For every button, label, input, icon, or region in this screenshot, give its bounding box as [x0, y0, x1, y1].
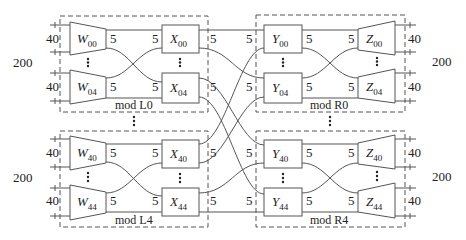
module-label: mod L0	[115, 98, 153, 112]
port-width-label: 40	[408, 31, 421, 46]
link-width-label: 5	[210, 193, 217, 208]
module-label: mod R4	[310, 213, 348, 227]
group-total-label: 200	[432, 169, 452, 184]
link-width-label: 5	[110, 145, 117, 160]
link-width-label: 5	[246, 145, 253, 160]
link-width-label: 5	[306, 31, 313, 46]
link-width-label: 5	[152, 145, 159, 160]
module-label: mod L4	[115, 213, 153, 227]
node-z44	[358, 183, 395, 218]
module-l4: 40 40 W40 W44 5 5 5 5 X40 X44 mod L4	[46, 131, 208, 227]
port-width-label: 40	[46, 145, 59, 160]
link-width-label: 5	[110, 31, 117, 46]
module-r4: Y40 Y44 5 5 5 5 Z40 Z44 40 40 mod R4	[256, 131, 421, 227]
link-width-label: 5	[306, 193, 313, 208]
link-width-label: 5	[152, 31, 159, 46]
port-width-label: 40	[46, 193, 59, 208]
interconnect: 5 5 5 5 5 5 5 5	[199, 30, 264, 212]
link-width-label: 5	[210, 31, 217, 46]
link-width-label: 5	[110, 79, 117, 94]
node-z04	[358, 69, 395, 103]
module-label: mod R0	[310, 98, 348, 112]
link-width-label: 5	[348, 79, 355, 94]
link-width-label: 5	[246, 193, 253, 208]
network-diagram: 40 40 W00 W04 5 5 5 5 X00 X04 mod L0 4	[0, 0, 466, 240]
link-width-label: 5	[246, 31, 253, 46]
group-total-label: 200	[13, 55, 33, 70]
port-width-label: 40	[408, 193, 421, 208]
link-width-label: 5	[246, 79, 253, 94]
link-width-label: 5	[152, 193, 159, 208]
link-width-label: 5	[152, 79, 159, 94]
port-width-label: 40	[408, 79, 421, 94]
module-l0: 40 40 W00 W04 5 5 5 5 X00 X04 mod L0	[46, 16, 208, 112]
link-width-label: 5	[348, 31, 355, 46]
link-width-label: 5	[306, 145, 313, 160]
group-total-label: 200	[432, 54, 452, 69]
link-width-label: 5	[110, 193, 117, 208]
node-z40	[358, 135, 395, 169]
port-width-label: 40	[408, 145, 421, 160]
link-width-label: 5	[348, 145, 355, 160]
node-z00	[358, 21, 395, 55]
port-width-label: 40	[46, 79, 59, 94]
link-width-label: 5	[306, 79, 313, 94]
link-width-label: 5	[348, 193, 355, 208]
group-total-label: 200	[13, 170, 33, 185]
port-width-label: 40	[46, 31, 59, 46]
link-width-label: 5	[210, 79, 217, 94]
module-r0: Y00 Y04 5 5 5 5 Z00 Z04 40 40 mod R0	[256, 15, 421, 112]
link-width-label: 5	[210, 145, 217, 160]
